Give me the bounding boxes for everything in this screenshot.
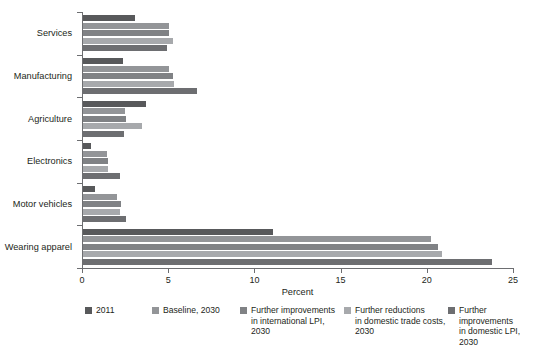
bar [83, 166, 108, 172]
legend-swatch-icon [85, 307, 92, 314]
bars-container [83, 12, 533, 268]
x-axis-tick [82, 268, 83, 273]
legend-item[interactable]: Further improvements in international LP… [240, 305, 335, 337]
x-axis-tick [254, 268, 255, 273]
legend-label: Baseline, 2030 [163, 305, 220, 316]
bar [83, 151, 107, 157]
bar [83, 108, 125, 114]
x-axis-tick-label: 15 [336, 275, 346, 285]
bar [83, 131, 124, 137]
x-axis-line [82, 268, 513, 269]
bar [83, 194, 117, 200]
bar [83, 244, 438, 250]
legend-swatch-icon [152, 307, 159, 314]
y-axis-label: Manufacturing [0, 71, 72, 81]
y-axis-label: Electronics [0, 156, 72, 166]
bar [83, 158, 108, 164]
y-axis-tick [77, 97, 82, 98]
legend-label: Further improvements in domestic LPI, 20… [459, 305, 533, 347]
bar [83, 38, 173, 44]
y-axis-tick [77, 183, 82, 184]
bar [83, 216, 126, 222]
legend-swatch-icon [344, 307, 351, 314]
x-axis-title: Percent [82, 287, 513, 297]
bar [83, 236, 431, 242]
bar [83, 66, 169, 72]
legend-label: Further reductions in domestic trade cos… [355, 305, 445, 337]
bar [83, 23, 169, 29]
bar [83, 173, 120, 179]
plot-area: ServicesManufacturingAgricultureElectron… [0, 0, 533, 300]
legend-item[interactable]: 2011 [85, 305, 114, 316]
x-axis-tick-label: 5 [166, 275, 171, 285]
bar [83, 186, 95, 192]
bar [83, 88, 197, 94]
x-axis-tick [341, 268, 342, 273]
chart-legend: 2011Baseline, 2030Further improvements i… [0, 303, 533, 344]
x-axis-tick [427, 268, 428, 273]
y-axis-tick [77, 55, 82, 56]
x-axis-tick [513, 268, 514, 273]
bar-group [83, 186, 533, 222]
legend-item[interactable]: Baseline, 2030 [152, 305, 220, 316]
legend-swatch-icon [240, 307, 247, 314]
bar [83, 123, 142, 129]
bar [83, 73, 173, 79]
y-axis-tick [77, 140, 82, 141]
x-axis-tick [168, 268, 169, 273]
x-axis-tick-label: 20 [422, 275, 432, 285]
bar [83, 116, 126, 122]
legend-item[interactable]: Further improvements in domestic LPI, 20… [448, 305, 533, 347]
y-axis-label: Services [0, 28, 72, 38]
bar [83, 15, 135, 21]
bar [83, 45, 167, 51]
y-axis-tick [77, 225, 82, 226]
bar [83, 259, 492, 265]
bar [83, 81, 174, 87]
bar [83, 143, 91, 149]
bar [83, 30, 169, 36]
bar [83, 229, 273, 235]
bar-group [83, 58, 533, 94]
bar [83, 251, 442, 257]
y-axis-label: Motor vehicles [0, 199, 72, 209]
bar [83, 209, 120, 215]
y-axis-label: Agriculture [0, 114, 72, 124]
x-axis-tick-label: 25 [508, 275, 518, 285]
bar-group [83, 101, 533, 137]
bar [83, 201, 121, 207]
y-axis-tick [77, 12, 82, 13]
legend-label: 2011 [96, 305, 114, 316]
bar-group [83, 143, 533, 179]
bar-group [83, 229, 533, 265]
legend-item[interactable]: Further reductions in domestic trade cos… [344, 305, 445, 337]
x-axis-tick-label: 0 [79, 275, 84, 285]
bar-group [83, 15, 533, 51]
legend-label: Further improvements in international LP… [251, 305, 335, 337]
y-axis-category-labels: ServicesManufacturingAgricultureElectron… [0, 12, 76, 268]
y-axis-label: Wearing apparel [0, 242, 72, 252]
bar [83, 58, 123, 64]
bar [83, 101, 146, 107]
x-axis-tick-label: 10 [249, 275, 259, 285]
legend-swatch-icon [448, 307, 455, 314]
